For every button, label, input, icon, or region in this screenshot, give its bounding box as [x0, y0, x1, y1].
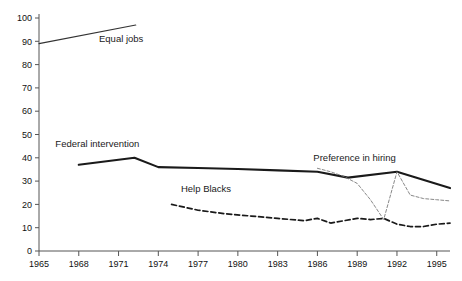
y-tick-label: 90: [22, 37, 32, 47]
x-tick-label: 1974: [148, 259, 168, 269]
line-chart: 0102030405060708090100196519681971197419…: [0, 0, 462, 281]
series-label-federal-intervention: Federal intervention: [55, 138, 139, 149]
x-tick-label: 1986: [307, 259, 327, 269]
y-tick-label: 70: [22, 83, 32, 93]
y-tick-label: 10: [22, 223, 32, 233]
x-tick-label: 1992: [387, 259, 407, 269]
chart-canvas: 0102030405060708090100196519681971197419…: [0, 0, 462, 281]
series-label-equal-jobs: Equal jobs: [99, 33, 144, 44]
x-tick-label: 1965: [29, 259, 49, 269]
series-line-help-blacks: [172, 204, 450, 226]
y-tick-label: 50: [22, 130, 32, 140]
y-tick-label: 0: [27, 246, 32, 256]
y-tick-label: 30: [22, 176, 32, 186]
x-tick-label: 1989: [347, 259, 367, 269]
y-tick-label: 80: [22, 60, 32, 70]
x-tick-label: 1980: [228, 259, 248, 269]
x-tick-label: 1971: [109, 259, 129, 269]
y-tick-label: 100: [17, 13, 32, 23]
y-tick-label: 60: [22, 106, 32, 116]
y-tick-label: 40: [22, 153, 32, 163]
x-tick-label: 1995: [427, 259, 447, 269]
series-label-preference-in-hiring: Preference in hiring: [313, 152, 395, 163]
y-tick-label: 20: [22, 200, 32, 210]
series-label-help-blacks: Help Blacks: [181, 183, 231, 194]
x-tick-label: 1977: [188, 259, 208, 269]
x-tick-label: 1968: [69, 259, 89, 269]
x-tick-label: 1983: [268, 259, 288, 269]
